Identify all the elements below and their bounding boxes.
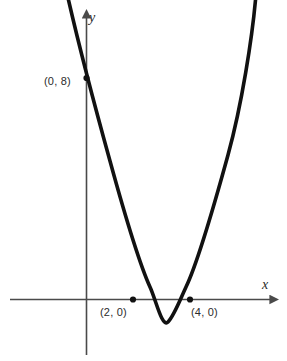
point-marker-y-intercept [83,75,89,81]
point-marker-root-right [187,296,193,302]
coordinate-plane [0,0,287,361]
graph-figure: (0, 8) (2, 0) (4, 0) y x [0,0,287,361]
y-axis-label: y [89,10,95,26]
x-axis-label: x [262,277,268,293]
parabola-curve [69,0,256,323]
label-y-intercept: (0, 8) [44,75,71,87]
point-marker-root-left [130,296,136,302]
label-root-right: (4, 0) [191,306,218,318]
label-root-left: (2, 0) [100,306,127,318]
